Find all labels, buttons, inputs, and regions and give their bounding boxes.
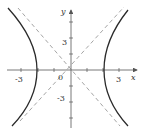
axes (7, 10, 137, 128)
left-branch (8, 8, 37, 126)
right-branch (104, 10, 128, 126)
x-axis-label: x (131, 73, 136, 82)
hyperbola-diagram: x y 0 -3 3 3 -3 (0, 0, 143, 131)
y-tick-label-neg3: -3 (57, 94, 65, 103)
x-tick-label-neg3: -3 (15, 75, 23, 84)
asymptote-y-equals-x (20, 7, 124, 121)
y-axis-label: y (60, 7, 66, 16)
y-tick-label-3: 3 (62, 38, 67, 47)
origin-label: 0 (58, 73, 63, 82)
hyperbola (8, 8, 128, 126)
x-tick-label-3: 3 (116, 75, 121, 84)
